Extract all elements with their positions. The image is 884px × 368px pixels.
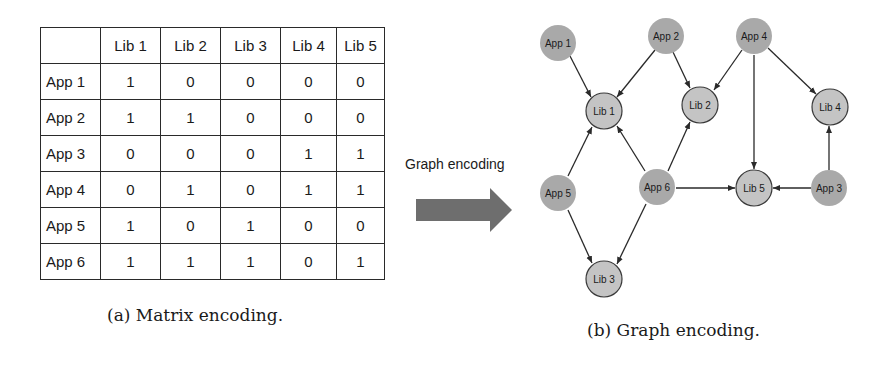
edge-app2-lib1 [617, 50, 655, 97]
node-app5: App 5 [540, 175, 576, 211]
edge-app2-lib2 [673, 52, 690, 88]
node-label: Lib 2 [689, 100, 711, 111]
node-label: Lib 3 [593, 274, 615, 285]
node-app1: App 1 [540, 25, 576, 61]
node-label: Lib 5 [743, 183, 765, 194]
edge-app6-lib2 [668, 122, 690, 171]
node-label: Lib 1 [593, 106, 615, 117]
node-lib1: Lib 1 [586, 93, 622, 129]
node-app2: App 2 [648, 18, 684, 54]
node-label: App 2 [653, 31, 680, 42]
node-label: App 1 [545, 38, 572, 49]
edge-app4-lib2 [714, 50, 742, 90]
node-label: App 5 [545, 188, 572, 199]
edge-app6-lib1 [617, 126, 645, 171]
edge-app5-lib3 [568, 210, 592, 263]
node-lib5: Lib 5 [736, 170, 772, 206]
node-app4: App 4 [736, 18, 772, 54]
graph-caption: (b) Graph encoding. [587, 320, 760, 340]
node-label: App 3 [816, 183, 843, 194]
edge-app1-lib1 [570, 56, 591, 97]
edge-app5-lib1 [568, 127, 592, 176]
edge-app6-lib3 [617, 204, 646, 264]
edge-app4-lib4 [768, 48, 816, 94]
node-label: Lib 4 [819, 102, 841, 113]
node-app3: App 3 [811, 170, 847, 206]
node-label: App 4 [741, 31, 768, 42]
node-label: App 6 [644, 182, 671, 193]
node-lib4: Lib 4 [812, 89, 848, 125]
graph-diagram: App 1 App 2 App 4 App 5 App 6 App 3 Lib … [0, 0, 884, 368]
node-lib3: Lib 3 [586, 261, 622, 297]
node-app6: App 6 [639, 169, 675, 205]
node-lib2: Lib 2 [682, 87, 718, 123]
graph-edges [568, 48, 829, 264]
right-arrow-icon [416, 188, 512, 232]
